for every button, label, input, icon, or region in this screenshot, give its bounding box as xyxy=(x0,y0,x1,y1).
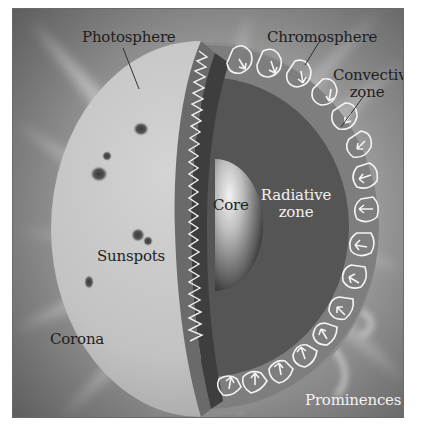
radiative-zone-label: Radiative zone xyxy=(259,187,333,221)
corona-label: Corona xyxy=(50,331,104,348)
convective-zone-label-line2: zone xyxy=(333,84,401,101)
radiative-zone-label-line2: zone xyxy=(259,204,333,221)
chromosphere-label: Chromosphere xyxy=(267,29,377,46)
radiative-zone-label-line1: Radiative xyxy=(259,187,333,204)
sunspots-label: Sunspots xyxy=(97,248,165,265)
photosphere-label: Photosphere xyxy=(82,29,176,46)
convective-zone-label: Convective zone xyxy=(333,67,401,101)
convective-zone-label-line1: Convective xyxy=(333,67,401,84)
prominences-label: Prominences xyxy=(305,392,401,409)
core-label: Core xyxy=(213,197,249,214)
sun-diagram-frame: Photosphere Chromosphere Convective zone… xyxy=(12,8,404,418)
